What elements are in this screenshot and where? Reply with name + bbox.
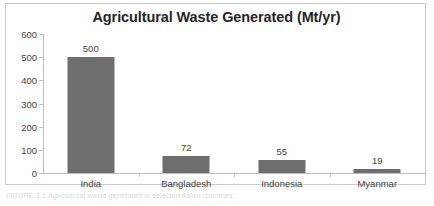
bar <box>354 169 401 173</box>
y-tick-mark <box>39 173 43 174</box>
x-category-label: India <box>80 178 101 189</box>
chart-title: Agricultural Waste Generated (Mt/yr) <box>6 9 427 25</box>
x-tick-mark <box>139 173 140 177</box>
bar-series: 500India72Bangladesh55Indonesia19Myanmar <box>43 34 425 173</box>
y-tick-label: 100 <box>21 144 37 155</box>
bar <box>163 156 210 173</box>
bar-group: 55Indonesia <box>234 34 330 173</box>
bar <box>67 57 114 173</box>
y-tick-label: 400 <box>21 75 37 86</box>
bar-value-label: 72 <box>181 142 192 153</box>
bar-group: 19Myanmar <box>330 34 426 173</box>
bar-value-label: 500 <box>83 43 99 54</box>
bar-group: 500India <box>43 34 139 173</box>
plot-area: 6005004003002001000 500India72Bangladesh… <box>43 34 425 173</box>
x-tick-mark <box>330 173 331 177</box>
y-tick-label: 500 <box>21 52 37 63</box>
bar <box>258 160 305 173</box>
x-tick-mark <box>234 173 235 177</box>
y-tick-label: 200 <box>21 121 37 132</box>
x-tick-mark <box>425 173 426 177</box>
chart-frame: Agricultural Waste Generated (Mt/yr) 600… <box>5 3 426 185</box>
x-category-label: Myanmar <box>357 178 397 189</box>
x-category-label: Indonesia <box>261 178 302 189</box>
y-tick-label: 0 <box>32 168 37 179</box>
x-category-label: Bangladesh <box>161 178 211 189</box>
y-tick-label: 600 <box>21 29 37 40</box>
y-tick-label: 300 <box>21 98 37 109</box>
bar-value-label: 19 <box>372 155 383 166</box>
bar-group: 72Bangladesh <box>139 34 235 173</box>
screenshot-root: Agricultural Waste Generated (Mt/yr) 600… <box>0 0 434 206</box>
bar-value-label: 55 <box>276 146 287 157</box>
figure-caption: FIGURE 3.1 Agricultural waste generated … <box>6 192 426 201</box>
